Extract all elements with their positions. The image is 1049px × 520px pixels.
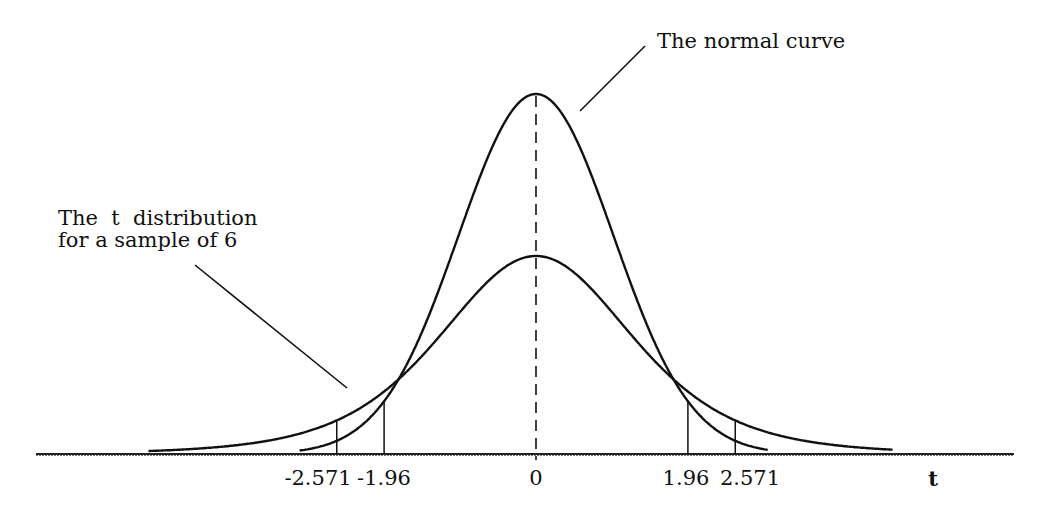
- chart-canvas: [0, 0, 1049, 520]
- normal-curve-leader-line: [580, 46, 645, 111]
- t-distribution-label-line2: for a sample of 6: [58, 229, 237, 251]
- tick-label-zero: 0: [529, 466, 542, 490]
- normal-curve-label: The normal curve: [657, 30, 845, 52]
- normal-curve: [300, 94, 768, 451]
- t-distribution-curve: [149, 256, 893, 451]
- t-distribution-label-line1: The t distribution: [58, 207, 258, 229]
- x-axis-label-t: t: [928, 466, 938, 491]
- t-distribution-leader-line: [195, 265, 347, 388]
- tick-label-pos-2571: 2.571: [720, 466, 780, 490]
- tick-label-neg-2571: -2.571: [284, 466, 351, 490]
- t-vs-normal-figure: The normal curve The t distribution for …: [0, 0, 1049, 520]
- tick-label-pos-196: 1.96: [663, 466, 710, 490]
- tick-label-neg-196: -1.96: [357, 466, 411, 490]
